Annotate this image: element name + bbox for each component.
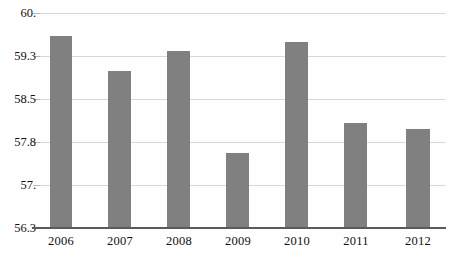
bar-2006[interactable] [50, 36, 72, 228]
x-axis-label-2006: 2006 [48, 234, 74, 249]
y-axis-label-3: 57.8 [0, 135, 36, 150]
y-axis-label-1: 59.3 [0, 49, 36, 64]
plot-area [40, 13, 446, 228]
x-axis-label-2008: 2008 [166, 234, 192, 249]
x-axis-label-2007: 2007 [107, 234, 133, 249]
y-axis-label-2: 58.5 [0, 92, 36, 107]
bar-2012[interactable] [406, 129, 430, 228]
bar-2008[interactable] [167, 51, 190, 228]
bars-layer [40, 13, 446, 228]
x-axis-label-2011: 2011 [343, 234, 368, 249]
x-axis-label-2012: 2012 [405, 234, 431, 249]
bar-2010[interactable] [285, 42, 308, 228]
y-axis-label-0: 60. [0, 6, 36, 21]
bar-2007[interactable] [108, 71, 131, 228]
bar-chart: 60. 59.3 58.5 57.8 57. 56.3 2006 2007 20… [0, 0, 450, 259]
y-axis-label-5: 56.3 [0, 221, 36, 236]
bar-2011[interactable] [344, 123, 367, 228]
y-axis-label-4: 57. [0, 178, 36, 193]
x-axis-label-2010: 2010 [284, 234, 310, 249]
bar-2009[interactable] [226, 153, 249, 229]
x-axis-line [32, 227, 446, 229]
x-axis-label-2009: 2009 [225, 234, 251, 249]
